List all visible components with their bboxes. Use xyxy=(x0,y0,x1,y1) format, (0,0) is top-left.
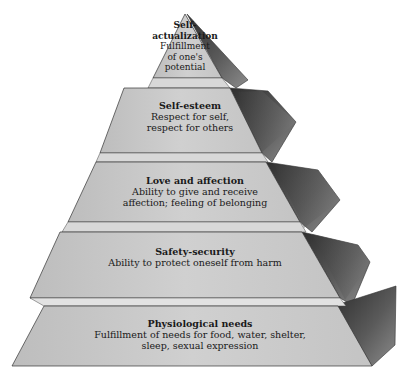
tier-description: affection; feeling of belonging xyxy=(100,197,290,208)
tier-description: of one's xyxy=(140,52,230,63)
tier-safety-security: Safety-security Ability to protect onese… xyxy=(80,246,310,268)
tier-description: Ability to give and receive xyxy=(100,186,290,197)
tier-title: Self-esteem xyxy=(120,100,260,111)
tier-title: Self- xyxy=(140,20,230,31)
maslow-pyramid-diagram: Self- actualization Fulfillment of one's… xyxy=(0,0,402,376)
tier-description: Respect for self, xyxy=(120,111,260,122)
tier-description: potential xyxy=(140,62,230,73)
tier-title: Safety-security xyxy=(80,246,310,257)
tier-title: Physiological needs xyxy=(70,318,330,329)
tier-title: Love and affection xyxy=(100,175,290,186)
tier-description: Ability to protect oneself from harm xyxy=(80,257,310,268)
tier-self-actualization: Self- actualization Fulfillment of one's… xyxy=(140,20,230,73)
tier-description: respect for others xyxy=(120,122,260,133)
tier-physiological-needs: Physiological needs Fulfillment of needs… xyxy=(70,318,330,351)
tier-description: sleep, sexual expression xyxy=(70,340,330,351)
tier-description: Fulfillment of needs for food, water, sh… xyxy=(70,329,330,340)
tier-love-and-affection: Love and affection Ability to give and r… xyxy=(100,175,290,208)
tier-description: Fulfillment xyxy=(140,41,230,52)
tier-self-esteem: Self-esteem Respect for self, respect fo… xyxy=(120,100,260,133)
tier-title: actualization xyxy=(140,31,230,42)
